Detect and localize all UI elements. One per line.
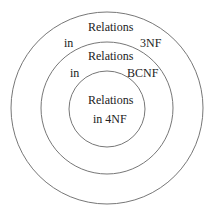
label-bcnf-name: BCNF — [127, 67, 158, 79]
label-bcnf-in: in — [70, 67, 79, 79]
circle-4nf — [69, 71, 145, 147]
label-4nf-relations: Relations — [88, 94, 133, 106]
label-3nf-name: 3NF — [140, 37, 161, 49]
label-3nf-relations: Relations — [88, 21, 133, 33]
label-bcnf-relations: Relations — [88, 50, 133, 62]
label-4nf-in-4nf: in 4NF — [93, 113, 127, 125]
circle-3nf — [11, 12, 203, 204]
label-3nf-in: in — [64, 37, 73, 49]
